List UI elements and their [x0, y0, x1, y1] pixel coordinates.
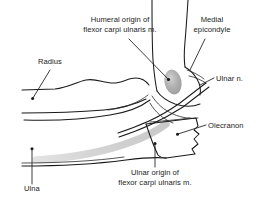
label-humeral-origin-line2: flexor carpi ulnaris m.: [83, 25, 156, 34]
leader-dot-radius: [31, 97, 34, 100]
leader-dot-ulna: [31, 147, 34, 150]
leader-dot-ulnar-origin: [154, 142, 157, 145]
leader-olecranon: [178, 125, 206, 134]
anatomy-canvas: Humeral origin of flexor carpi ulnaris m…: [0, 0, 268, 203]
anatomical-figure: Humeral origin of flexor carpi ulnaris m…: [0, 0, 268, 203]
label-medial-epicondyle-line2: epicondyle: [194, 25, 231, 34]
olecranon-bone: [146, 118, 199, 158]
leader-ulnar-nerve: [200, 78, 214, 85]
label-ulna: Ulna: [24, 184, 41, 193]
label-ulnar-nerve: Ulnar n.: [216, 74, 243, 83]
label-humeral-origin-line1: Humeral origin of: [91, 15, 151, 24]
humeral-origin-highlight: [162, 68, 183, 96]
leader-dot-humeral-origin: [167, 78, 170, 81]
label-radius: Radius: [38, 57, 62, 66]
label-olecranon: Olecranon: [208, 121, 244, 130]
ulnar-origin-highlight: [36, 124, 166, 160]
leader-dot-olecranon: [176, 133, 179, 136]
leader-humeral-origin: [129, 39, 168, 79]
label-ulnar-origin-line1: Ulnar origin of: [131, 168, 180, 177]
leader-medial-epicondyle: [190, 39, 205, 70]
medial-epicondyle-bone: [157, 67, 206, 106]
label-medial-epicondyle-line1: Medial: [201, 15, 224, 24]
label-ulnar-origin-line2: flexor carpi ulnaris m.: [118, 178, 191, 187]
leader-radius: [33, 70, 50, 98]
